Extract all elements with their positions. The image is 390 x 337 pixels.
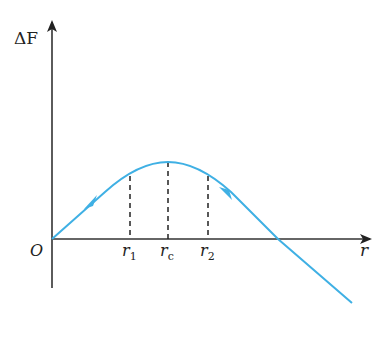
- energy-curve: [52, 162, 352, 303]
- rc-label: rc: [160, 241, 174, 263]
- x-axis-label: r: [360, 240, 369, 260]
- y-axis-label: ΔF: [14, 28, 38, 48]
- r2-label: r2: [200, 241, 215, 263]
- right-branch-arrow-icon: [219, 187, 232, 200]
- free-energy-diagram: ΔF r O r1 rc r2: [0, 0, 390, 337]
- origin-label: O: [30, 241, 43, 260]
- r1-label: r1: [122, 241, 137, 263]
